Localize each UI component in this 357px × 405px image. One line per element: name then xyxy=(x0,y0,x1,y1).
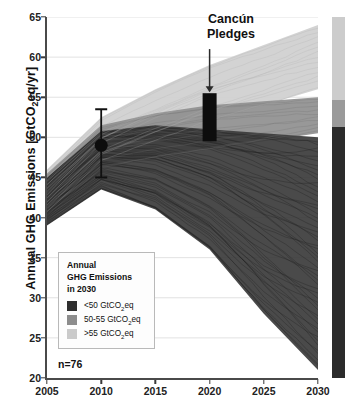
colorbar-segment xyxy=(332,127,345,378)
x-tick-label: 2015 xyxy=(144,385,167,397)
legend-title-line-2: GHG Emissions xyxy=(67,272,147,284)
legend-item: >55 GtCO2eq xyxy=(67,329,147,340)
y-tick-label: 50 xyxy=(29,131,41,143)
y-tick-label: 25 xyxy=(29,332,41,344)
y-tick-label: 65 xyxy=(29,11,41,23)
x-tick-label: 2010 xyxy=(90,385,113,397)
legend-swatch xyxy=(67,329,77,339)
legend-swatch xyxy=(67,315,77,325)
category-colorbar xyxy=(332,17,345,378)
annotation-line-2: Pledges xyxy=(176,27,286,42)
legend-item: 50-55 GtCO2eq xyxy=(67,315,147,326)
legend-title: Annual GHG Emissions in 2030 xyxy=(67,260,147,296)
y-tick-label: 30 xyxy=(29,292,41,304)
colorbar-segment xyxy=(332,17,345,100)
sample-size-label: n=76 xyxy=(58,358,82,370)
legend-item: <50 GtCO2eq xyxy=(67,301,147,312)
legend-items: <50 GtCO2eq50-55 GtCO2eq>55 GtCO2eq xyxy=(67,301,147,340)
y-tick-label: 60 xyxy=(29,51,41,63)
cancun-pledges-annotation: Cancún Pledges xyxy=(176,12,286,43)
x-tick-label: 2005 xyxy=(35,385,58,397)
legend-item-label: >55 GtCO2eq xyxy=(84,329,134,340)
y-axis-ticks: 65605550454035302520 xyxy=(0,0,41,405)
legend-title-line-3: in 2030 xyxy=(67,284,147,296)
legend: Annual GHG Emissions in 2030 <50 GtCO2eq… xyxy=(58,252,155,349)
y-tick-label: 45 xyxy=(29,171,41,183)
y-tick-label: 55 xyxy=(29,91,41,103)
legend-item-label: <50 GtCO2eq xyxy=(84,301,134,312)
colorbar-segment xyxy=(332,100,345,127)
chart-root: Annual GHG Emissions [GtCO2eq/yr] 656055… xyxy=(0,0,357,405)
x-tick-label: 2020 xyxy=(198,385,221,397)
y-tick-label: 35 xyxy=(29,252,41,264)
legend-title-line-1: Annual xyxy=(67,260,147,272)
annotation-line-1: Cancún xyxy=(176,12,286,27)
legend-item-label: 50-55 GtCO2eq xyxy=(84,315,141,326)
y-tick-label: 40 xyxy=(29,212,41,224)
x-axis-line xyxy=(45,378,318,380)
legend-swatch xyxy=(67,301,77,311)
y-tick-label: 20 xyxy=(29,372,41,384)
x-tick-label: 2025 xyxy=(252,385,275,397)
x-tick-label: 2030 xyxy=(306,385,329,397)
